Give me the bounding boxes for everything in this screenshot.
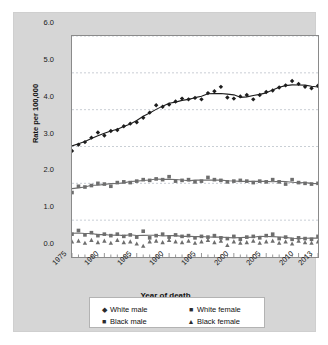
data-point-square xyxy=(251,235,255,239)
data-point-square xyxy=(180,235,184,239)
data-point-diamond xyxy=(173,99,177,103)
data-point-square xyxy=(200,235,204,239)
data-point-square xyxy=(90,231,94,235)
data-point-square xyxy=(232,179,236,183)
data-point-square xyxy=(284,182,288,186)
data-point-square xyxy=(180,179,184,183)
legend-item[interactable]: ▲Black female xyxy=(187,315,240,326)
data-point-diamond xyxy=(128,121,132,125)
data-point-triangle xyxy=(147,239,151,243)
y-tick-label: 0.0 xyxy=(28,240,54,248)
data-point-square xyxy=(72,191,74,195)
chart-panel: 0.01.02.03.04.05.06.0 Rate per 100,000 1… xyxy=(13,12,316,332)
data-point-square xyxy=(148,236,152,240)
data-point-square xyxy=(310,182,314,186)
data-point-triangle xyxy=(212,240,216,244)
data-point-triangle xyxy=(173,239,177,243)
data-point-square xyxy=(310,238,314,242)
data-point-square xyxy=(128,181,132,185)
chart-legend: ◆White male■White female■Black male▲Blac… xyxy=(89,297,265,328)
legend-marker-icon: ▲ xyxy=(187,316,195,327)
data-point-triangle xyxy=(83,241,87,245)
data-point-triangle xyxy=(102,239,106,243)
data-point-triangle xyxy=(72,239,74,243)
data-point-square xyxy=(122,180,126,184)
data-point-square xyxy=(245,235,249,239)
data-point-diamond xyxy=(232,96,236,100)
legend-item[interactable]: ■White female xyxy=(187,303,241,314)
data-point-triangle xyxy=(122,240,126,244)
data-point-triangle xyxy=(76,239,80,243)
data-point-triangle xyxy=(225,243,229,247)
legend-marker-icon: ■ xyxy=(100,316,108,327)
data-point-diamond xyxy=(109,129,113,133)
data-point-square xyxy=(109,184,113,188)
x-tick-label: 1975 xyxy=(46,249,68,271)
data-point-square xyxy=(264,234,268,238)
legend-label: White female xyxy=(197,305,241,314)
data-point-square xyxy=(174,179,178,183)
data-point-triangle xyxy=(193,241,197,245)
y-tick-label: 1.0 xyxy=(28,203,54,211)
data-point-square xyxy=(258,236,262,240)
y-axis-title: Rate per 100,000 xyxy=(31,59,40,169)
data-point-square xyxy=(290,238,294,242)
data-point-triangle xyxy=(283,239,287,243)
data-point-square xyxy=(284,235,288,239)
data-point-square xyxy=(90,184,94,188)
data-point-triangle xyxy=(135,242,139,246)
data-point-square xyxy=(135,179,139,183)
data-point-diamond xyxy=(251,97,255,101)
data-point-square xyxy=(303,237,307,241)
data-point-diamond xyxy=(238,94,242,98)
data-point-square xyxy=(161,232,165,236)
data-point-diamond xyxy=(186,97,190,101)
data-point-triangle xyxy=(316,239,318,243)
data-point-square xyxy=(271,178,275,182)
data-point-square xyxy=(277,237,281,241)
data-point-diamond xyxy=(96,130,100,134)
data-point-triangle xyxy=(115,238,119,242)
data-point-square xyxy=(239,179,243,183)
data-point-square xyxy=(206,176,210,180)
data-point-diamond xyxy=(154,103,158,107)
data-point-square xyxy=(154,177,158,181)
legend-item[interactable]: ◆White male xyxy=(100,303,148,314)
data-point-diamond xyxy=(219,85,223,89)
plot-svg xyxy=(72,36,318,257)
y-tick-label: 6.0 xyxy=(28,19,54,27)
data-point-square xyxy=(239,238,243,242)
data-point-square xyxy=(297,181,301,185)
data-point-triangle xyxy=(89,238,93,242)
data-point-square xyxy=(128,233,132,237)
data-point-triangle xyxy=(128,239,132,243)
legend-item[interactable]: ■Black male xyxy=(100,315,147,326)
data-point-square xyxy=(213,234,217,238)
data-point-square xyxy=(116,181,120,185)
data-point-triangle xyxy=(160,240,164,244)
data-point-triangle xyxy=(258,241,262,245)
data-point-square xyxy=(72,232,74,236)
data-point-square xyxy=(154,234,158,238)
data-point-triangle xyxy=(199,239,203,243)
data-point-square xyxy=(135,235,139,239)
data-point-triangle xyxy=(154,239,158,243)
legend-marker-icon: ■ xyxy=(187,304,195,315)
data-point-square xyxy=(187,178,191,182)
data-point-square xyxy=(167,175,171,179)
data-point-square xyxy=(141,229,145,233)
data-point-square xyxy=(316,182,318,186)
data-point-diamond xyxy=(141,116,145,120)
data-point-square xyxy=(161,178,165,182)
data-point-triangle xyxy=(141,244,145,248)
data-point-square xyxy=(109,234,113,238)
data-point-diamond xyxy=(258,93,262,97)
legend-label: Black male xyxy=(110,317,147,326)
data-point-square xyxy=(258,179,262,183)
data-point-square xyxy=(116,232,120,236)
data-point-square xyxy=(77,184,81,188)
data-point-square xyxy=(77,229,81,233)
data-point-square xyxy=(141,178,145,182)
data-point-square xyxy=(213,178,217,182)
data-point-square xyxy=(226,180,230,184)
